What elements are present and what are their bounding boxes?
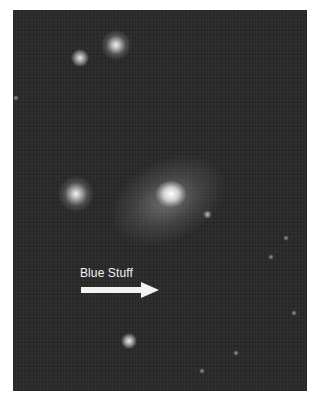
star bbox=[58, 176, 94, 212]
faint-star bbox=[13, 95, 19, 101]
galaxy-core bbox=[156, 181, 186, 207]
galaxy-knot bbox=[203, 210, 212, 219]
faint-star bbox=[199, 368, 205, 374]
annotation-label: Blue Stuff bbox=[80, 266, 133, 280]
faint-star bbox=[283, 235, 289, 241]
star bbox=[101, 30, 131, 60]
astronomical-image: Blue Stuff bbox=[13, 10, 307, 391]
arrow-right-icon bbox=[81, 282, 159, 298]
faint-star bbox=[233, 350, 239, 356]
star bbox=[71, 49, 89, 67]
star bbox=[121, 333, 137, 349]
faint-star bbox=[268, 254, 274, 260]
faint-star bbox=[291, 310, 297, 316]
